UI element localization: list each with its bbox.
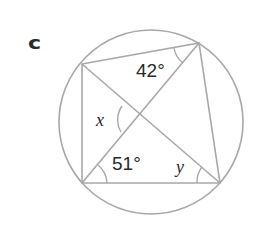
angle-y-label: y (174, 157, 184, 177)
angle-arc-51 (98, 165, 107, 183)
angle-arc-42 (174, 48, 183, 63)
cyclic-quadrilateral-diagram: 42° x 51° y (0, 0, 254, 226)
angle-arc-y (197, 167, 202, 183)
circle (59, 30, 243, 214)
angle-arc-x (118, 106, 122, 132)
angle-x-label: x (95, 110, 104, 130)
angle-42-label: 42° (136, 60, 165, 81)
angle-51-label: 51° (112, 153, 141, 174)
